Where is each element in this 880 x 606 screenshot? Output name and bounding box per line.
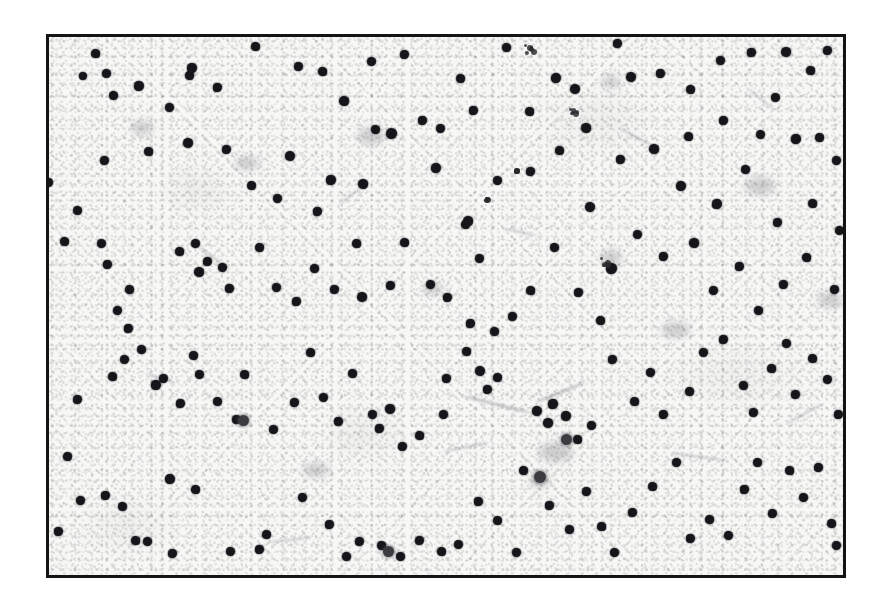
- particle: [493, 516, 502, 525]
- particle: [741, 165, 750, 174]
- particle: [218, 263, 227, 272]
- particle: [442, 374, 451, 383]
- particle: [439, 410, 448, 419]
- particle-aggregate: [524, 44, 538, 56]
- particle: [768, 509, 777, 518]
- particle: [608, 355, 617, 364]
- particle: [334, 417, 343, 426]
- particle: [781, 47, 791, 57]
- particle: [272, 283, 281, 292]
- particle: [330, 285, 339, 294]
- particle: [54, 527, 63, 536]
- particle: [262, 530, 271, 539]
- particle: [91, 49, 100, 58]
- particle: [474, 497, 483, 506]
- background-streak: [534, 380, 585, 403]
- particle: [613, 39, 622, 48]
- particle: [716, 56, 725, 65]
- background-smudge: [131, 121, 153, 135]
- particle: [454, 540, 463, 549]
- particle: [827, 519, 836, 528]
- particle: [573, 435, 582, 444]
- particle: [456, 74, 465, 83]
- particle: [791, 134, 801, 144]
- particle: [79, 72, 87, 80]
- particle: [782, 339, 791, 348]
- particle: [151, 380, 161, 390]
- particle: [118, 502, 127, 511]
- background-streak: [267, 537, 311, 544]
- particle: [806, 66, 815, 75]
- particle: [830, 285, 839, 294]
- background-streak: [463, 394, 532, 414]
- particle: [823, 46, 832, 55]
- particle: [475, 254, 484, 263]
- particle: [610, 548, 619, 557]
- particle: [310, 264, 319, 273]
- particle: [581, 123, 591, 133]
- particle: [358, 179, 368, 189]
- particle: [226, 547, 235, 556]
- particle: [131, 536, 140, 545]
- particle: [709, 286, 718, 295]
- particle: [426, 280, 435, 289]
- particle: [646, 368, 655, 377]
- particle: [582, 487, 591, 496]
- particle: [526, 167, 535, 176]
- particle: [194, 267, 204, 277]
- particle: [626, 72, 636, 82]
- particle: [672, 458, 681, 467]
- particle: [656, 69, 665, 78]
- particle: [689, 238, 699, 248]
- particle-out-of-focus: [534, 471, 546, 483]
- micrograph-figure: [0, 0, 880, 606]
- particle: [100, 156, 109, 165]
- particle: [222, 145, 231, 154]
- particle: [165, 103, 174, 112]
- particle: [814, 463, 823, 472]
- particle: [431, 163, 441, 173]
- particle: [113, 306, 122, 315]
- particle: [97, 239, 106, 248]
- particle: [832, 541, 841, 550]
- particle: [285, 151, 295, 161]
- particle: [785, 466, 794, 475]
- particle: [525, 107, 534, 116]
- particle-aggregate: [484, 196, 492, 204]
- particle: [475, 366, 485, 376]
- particle-aggregate: [568, 107, 580, 118]
- particle: [203, 257, 212, 266]
- particle: [659, 410, 668, 419]
- particle: [415, 536, 424, 545]
- particle: [740, 485, 749, 494]
- particle-out-of-focus: [238, 415, 249, 426]
- particle: [298, 493, 307, 502]
- particle: [326, 175, 336, 185]
- particle: [686, 85, 695, 94]
- particle: [649, 144, 659, 154]
- particle: [165, 474, 175, 484]
- particle: [400, 50, 409, 59]
- particle: [355, 537, 364, 546]
- particle: [125, 285, 134, 294]
- particle: [570, 84, 580, 94]
- particle: [415, 431, 424, 440]
- particle: [176, 399, 185, 408]
- particle: [555, 146, 564, 155]
- particle: [290, 398, 299, 407]
- particle: [137, 345, 146, 354]
- particle: [749, 408, 758, 417]
- particle: [73, 395, 82, 404]
- particle: [367, 57, 376, 66]
- particle: [461, 220, 470, 229]
- background-streak: [338, 187, 361, 206]
- particle: [756, 130, 765, 139]
- particle: [724, 531, 733, 540]
- particle: [313, 207, 322, 216]
- particle: [823, 375, 832, 384]
- particle: [596, 316, 605, 325]
- particle: [213, 397, 222, 406]
- particle: [791, 390, 800, 399]
- particle: [357, 292, 367, 302]
- particle: [469, 106, 478, 115]
